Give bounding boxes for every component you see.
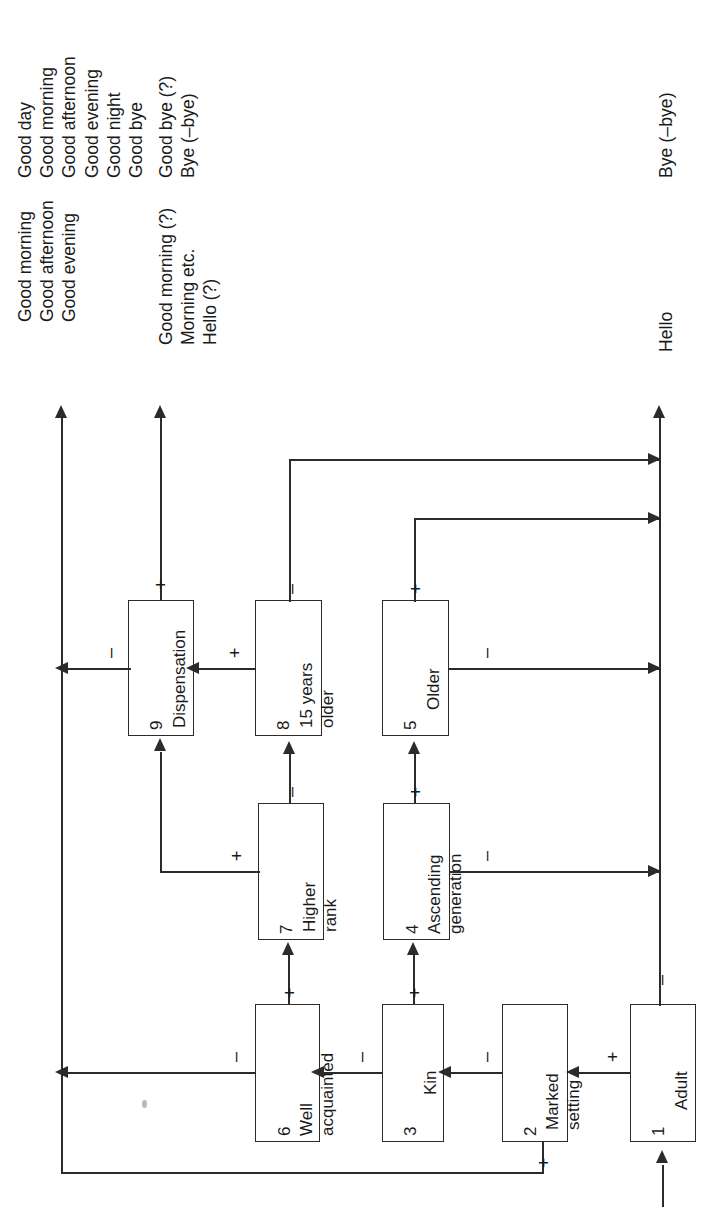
output-line: Good night (103, 56, 125, 178)
sign-2-plus: + (535, 1157, 553, 1168)
sign-4-minus: – (477, 851, 495, 861)
output-line: Good morning (14, 200, 36, 322)
edge-7-plus-up (160, 752, 162, 873)
sign-4-plus: + (407, 786, 425, 797)
output-label-group-goodbye: Good bye (?) Bye (–bye) (155, 76, 199, 178)
output-line: Good evening (58, 200, 80, 322)
hello-bye-arrowhead-icon (653, 405, 665, 418)
node-label-4: Ascending (425, 855, 446, 934)
output-line: Hello (?) (199, 208, 221, 345)
node-number-7: 7 (277, 925, 297, 934)
output-line: Bye (–bye) (177, 76, 199, 178)
output-line: Good bye (?) (155, 76, 177, 178)
edge-5-bye-arrowhead-icon (648, 512, 661, 524)
node-number-4: 4 (403, 925, 423, 934)
edge-2-to-3 (450, 1072, 503, 1074)
node-number-6: 6 (275, 1127, 295, 1136)
edge-3-to-6 (322, 1072, 382, 1074)
sign-6-plus: + (281, 987, 299, 998)
output-label-group-morning: Good morning Good afternoon Good evening (14, 200, 81, 322)
node-number-9: 9 (147, 721, 167, 730)
edge-4-to-hello-axis (449, 871, 660, 873)
sign-7-plus: + (228, 850, 246, 861)
edge-5-to-hello-axis (448, 668, 660, 670)
node-label-8b: older (318, 690, 339, 728)
edge-7-plus-left (160, 871, 260, 873)
sign-1-plus: + (604, 1051, 622, 1062)
sign-9-plus: + (152, 579, 170, 590)
sign-3-minus: – (352, 1052, 370, 1062)
edge-8-minus-up (289, 459, 291, 602)
sign-5-plus: + (407, 583, 425, 594)
output-line: Good afternoon (58, 56, 80, 178)
edge-6-to-left-axis (61, 1072, 256, 1074)
scan-artifact-speck (142, 1100, 147, 1108)
node-label-6: Well (297, 1103, 318, 1136)
edge-start-to-1 (662, 1165, 664, 1207)
output-line: Good morning (?) (155, 208, 177, 345)
node-number-1: 1 (649, 1127, 669, 1136)
output-line: Good bye (125, 56, 147, 178)
sign-8-plus: + (226, 647, 244, 658)
edge-start-arrowhead-icon (656, 1150, 668, 1163)
dispensation-output-axis (160, 418, 162, 600)
output-label-bye: Bye (–bye) (655, 92, 677, 178)
output-line: Good afternoon (36, 200, 58, 322)
left-terminal-axis (61, 418, 63, 1172)
edge-2-to-3-arrowhead-icon (438, 1066, 451, 1078)
output-line: Good evening (81, 56, 103, 178)
node-number-5: 5 (401, 721, 421, 730)
node-number-3: 3 (401, 1127, 421, 1136)
edge-7-to-9-arrowhead-icon (154, 738, 166, 751)
node-number-2: 2 (521, 1127, 541, 1136)
node-label-7: Higher (300, 882, 321, 932)
edge-1-minus-stub (659, 1004, 661, 1006)
node-label-5: Older (424, 668, 445, 710)
sign-1-minus: – (652, 975, 670, 985)
sign-7-minus: – (282, 787, 300, 797)
node-number-8: 8 (274, 721, 294, 730)
edge-9-left-arrowhead-icon (55, 662, 68, 674)
node-label-2b: setting (564, 1080, 585, 1130)
sign-5-minus: – (477, 648, 495, 658)
edge-2-plus-bottom (61, 1172, 544, 1174)
output-label-hello: Hello (655, 312, 677, 352)
node-label-1: Adult (672, 1071, 693, 1110)
sign-3-plus: + (406, 987, 424, 998)
edge-8-to-9-arrowhead-icon (186, 662, 199, 674)
output-label-group-informal: Good morning (?) Morning etc. Hello (?) (155, 208, 222, 345)
edge-1-to-2 (578, 1072, 631, 1074)
edge-8-bye-arrowhead-icon (648, 453, 661, 465)
edge-9-to-left-axis (61, 668, 131, 670)
edge-6-left-arrowhead-icon (55, 1066, 68, 1078)
edge-5-plus-right (414, 518, 660, 520)
sign-6-minus: – (226, 1052, 244, 1062)
edge-1-to-2-arrowhead-icon (566, 1066, 579, 1078)
node-label-4b: generation (446, 854, 467, 934)
edge-8-to-9 (196, 668, 256, 670)
sign-2-minus: – (477, 1052, 495, 1062)
hello-bye-axis (659, 418, 661, 1004)
edge-4-to-5-arrowhead-icon (408, 741, 420, 754)
left-terminal-arrowhead-icon (55, 405, 67, 418)
node-label-8: 15 years (297, 663, 318, 728)
edge-8-minus-right (289, 459, 660, 461)
diagram-canvas: Good day Good morning Good afternoon Goo… (0, 0, 708, 1212)
node-label-7b: rank (321, 899, 342, 932)
edge-3-to-6-arrowhead-icon (311, 1066, 324, 1078)
output-label-group-greetings: Good day Good morning Good afternoon Goo… (14, 56, 147, 178)
edge-5-hello-arrowhead-icon (648, 662, 661, 674)
output-line: Morning etc. (177, 208, 199, 345)
output-line: Good morning (36, 56, 58, 178)
sign-8-minus: – (282, 584, 300, 594)
node-label-2: Marked (543, 1073, 564, 1130)
output-line: Good day (14, 56, 36, 178)
edge-6-to-7-arrowhead-icon (282, 942, 294, 955)
edge-7-to-8-arrowhead-icon (283, 741, 295, 754)
sign-9-minus: – (101, 648, 119, 658)
edge-4-hello-arrowhead-icon (648, 865, 661, 877)
dispensation-output-arrowhead-icon (154, 405, 166, 418)
edge-3-to-4-arrowhead-icon (407, 942, 419, 955)
